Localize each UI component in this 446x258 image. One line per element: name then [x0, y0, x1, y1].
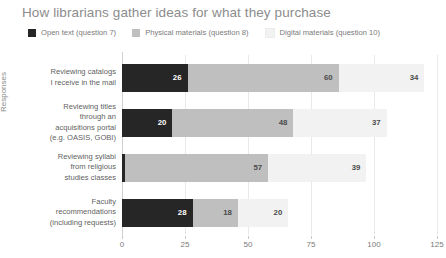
legend-label: Digital materials (question 10) [280, 29, 380, 37]
bar-value-label: 39 [352, 164, 367, 172]
chart-title: How librarians gather ideas for what the… [22, 5, 331, 20]
x-axis-tick-mark [311, 236, 312, 239]
category-label: Faculty recommendations (including reque… [4, 190, 116, 235]
x-axis-tick-group: 0255075100125 [122, 236, 437, 254]
bar-value-label: 60 [324, 74, 339, 82]
category-label-group: Reviewing catalogs I receive in the mail… [0, 55, 116, 235]
legend-swatch-icon [132, 29, 140, 37]
bar-segment[interactable]: 37 [293, 109, 386, 137]
chart-container: How librarians gather ideas for what the… [0, 0, 446, 258]
legend-item-0[interactable]: Open text (question 7) [28, 29, 116, 37]
bar-value-label: 20 [274, 209, 289, 217]
bar-row: 15739 [122, 154, 437, 182]
bar-row: 266034 [122, 64, 437, 92]
x-axis-tick-mark [122, 236, 123, 239]
x-axis-tick-label: 25 [181, 240, 190, 249]
bar-segment[interactable]: 20 [238, 199, 288, 227]
category-label: Reviewing catalogs I receive in the mail [4, 55, 116, 100]
x-axis-tick-mark [248, 236, 249, 239]
bar-segment[interactable]: 28 [122, 199, 193, 227]
bar-segment[interactable]: 39 [268, 154, 366, 182]
legend-swatch-icon [28, 29, 36, 37]
bar-value-label: 28 [178, 209, 193, 217]
bar-segment[interactable]: 20 [122, 109, 172, 137]
x-axis-tick-label: 75 [307, 240, 316, 249]
plot-area: 26603420483715739281820 [122, 55, 437, 235]
bar-segment[interactable]: 57 [125, 154, 269, 182]
chart-legend: Open text (question 7)Physical materials… [28, 28, 380, 38]
bar-value-label: 34 [410, 74, 425, 82]
x-axis-tick-label: 0 [120, 240, 124, 249]
x-axis-tick-mark [185, 236, 186, 239]
bar-segment[interactable]: 60 [188, 64, 339, 92]
x-axis-tick-mark [374, 236, 375, 239]
bar-segment[interactable]: 48 [172, 109, 293, 137]
bar-value-label: 48 [279, 119, 294, 127]
legend-item-1[interactable]: Physical materials (question 8) [132, 29, 248, 37]
legend-label: Physical materials (question 8) [145, 29, 248, 37]
x-axis-tick-mark [437, 236, 438, 239]
bar-row: 281820 [122, 199, 437, 227]
legend-label: Open text (question 7) [41, 29, 116, 37]
x-axis-tick-label: 100 [367, 240, 380, 249]
legend-swatch-icon [265, 28, 275, 38]
category-label: Reviewing syllabi from religious studies… [4, 145, 116, 190]
bar-value-label: 18 [223, 209, 238, 217]
bar-value-label: 57 [253, 164, 268, 172]
bar-segment[interactable]: 18 [193, 199, 238, 227]
gridline [437, 55, 438, 235]
bar-value-label: 37 [372, 119, 387, 127]
x-axis-tick-label: 125 [430, 240, 443, 249]
bar-value-label: 26 [173, 74, 188, 82]
x-axis-tick-label: 50 [244, 240, 253, 249]
legend-item-2[interactable]: Digital materials (question 10) [265, 28, 380, 38]
bar-row: 204837 [122, 109, 437, 137]
bar-segment[interactable]: 26 [122, 64, 188, 92]
bar-segment[interactable]: 34 [339, 64, 425, 92]
category-label: Reviewing titles through an acquisitions… [4, 100, 116, 145]
bar-value-label: 20 [158, 119, 173, 127]
